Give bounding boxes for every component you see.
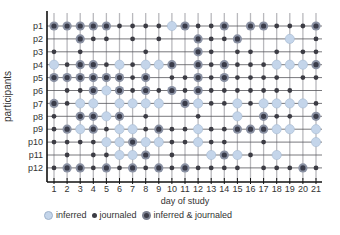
y-tick-label: p4 (33, 60, 43, 70)
marker-journaled (274, 88, 279, 93)
marker-journaled (130, 37, 135, 42)
marker-journaled (222, 166, 227, 171)
journaled-marker-icon (92, 213, 97, 218)
x-tick-label: 14 (219, 184, 229, 194)
marker-inferred-and-journaled-core (51, 101, 56, 106)
x-tick-label: 10 (167, 184, 177, 194)
marker-journaled (183, 75, 188, 80)
marker-inferred (272, 99, 281, 108)
marker-journaled (209, 24, 214, 29)
marker-journaled (209, 88, 214, 93)
marker-journaled (209, 140, 214, 145)
marker-inferred-and-journaled-core (91, 88, 96, 93)
y-tick-label: p10 (28, 137, 43, 147)
marker-journaled (156, 24, 161, 29)
marker-journaled (183, 140, 188, 145)
marker-journaled (235, 62, 240, 67)
marker-journaled (65, 101, 70, 106)
marker-inferred (233, 112, 242, 121)
marker-journaled (248, 49, 253, 54)
marker-inferred-and-journaled-core (156, 165, 161, 170)
marker-journaled (65, 153, 70, 158)
marker-journaled (65, 140, 70, 145)
marker-journaled (274, 166, 279, 171)
marker-journaled (170, 127, 175, 132)
marker-inferred-and-journaled-core (117, 88, 122, 93)
marker-journaled (222, 140, 227, 145)
marker-inferred-and-journaled-core (143, 88, 148, 93)
marker-journaled (301, 75, 306, 80)
marker-journaled (287, 88, 292, 93)
marker-inferred-and-journaled-core (78, 36, 83, 41)
marker-inferred-and-journaled-core (104, 165, 109, 170)
marker-journaled (130, 62, 135, 67)
marker-inferred (285, 60, 294, 69)
marker-inferred (115, 125, 124, 134)
marker-journaled (52, 166, 57, 171)
marker-journaled (78, 88, 83, 93)
marker-inferred-and-journaled-core (117, 114, 122, 119)
marker-journaled (222, 127, 227, 132)
marker-journaled (314, 75, 319, 80)
marker-inferred (285, 99, 294, 108)
marker-journaled (91, 37, 96, 42)
marker-inferred (167, 21, 176, 30)
marker-journaled (143, 127, 148, 132)
marker-inferred (128, 150, 137, 159)
marker-inferred-and-journaled-core (261, 114, 266, 119)
marker-journaled (143, 24, 148, 29)
marker-inferred (76, 125, 85, 134)
marker-inferred-and-journaled-core (196, 49, 201, 54)
marker-inferred (102, 86, 111, 95)
marker-inferred (102, 112, 111, 121)
marker-inferred-and-journaled-core (222, 62, 227, 67)
marker-inferred-and-journaled-core (117, 75, 122, 80)
plot-area: 123456789101112131415161718192021p1p2p3p… (0, 0, 340, 235)
marker-inferred-and-journaled-core (143, 75, 148, 80)
marker-inferred (154, 60, 163, 69)
marker-inferred-and-journaled-core (104, 23, 109, 28)
marker-journaled (196, 24, 201, 29)
marker-journaled (235, 49, 240, 54)
marker-inferred-and-journaled-core (235, 36, 240, 41)
marker-inferred-and-journaled-core (130, 165, 135, 170)
marker-journaled (130, 24, 135, 29)
marker-inferred (154, 99, 163, 108)
marker-journaled (209, 166, 214, 171)
marker-inferred-and-journaled-core (169, 62, 174, 67)
marker-inferred-and-journaled-core (91, 23, 96, 28)
marker-inferred-and-journaled-core (65, 75, 70, 80)
y-tick-label: p2 (33, 34, 43, 44)
marker-inferred-and-journaled-core (51, 75, 56, 80)
marker-journaled (91, 140, 96, 145)
marker-journaled (314, 166, 319, 171)
marker-journaled (104, 153, 109, 158)
x-tick-label: 15 (232, 184, 242, 194)
marker-inferred (89, 99, 98, 108)
x-tick-label: 3 (78, 184, 83, 194)
marker-journaled (248, 88, 253, 93)
marker-inferred (311, 138, 320, 147)
marker-journaled (78, 49, 83, 54)
marker-inferred (272, 60, 281, 69)
marker-inferred-and-journaled-core (65, 127, 70, 132)
marker-journaled (78, 140, 83, 145)
marker-inferred-and-journaled-core (196, 36, 201, 41)
marker-journaled (52, 114, 57, 119)
marker-journaled (287, 166, 292, 171)
y-tick-label: p8 (33, 112, 43, 122)
x-tick-label: 9 (156, 184, 161, 194)
marker-journaled (314, 101, 319, 106)
x-tick-label: 6 (117, 184, 122, 194)
marker-journaled (65, 62, 70, 67)
x-tick-label: 12 (193, 184, 203, 194)
marker-journaled (274, 75, 279, 80)
marker-inferred (128, 99, 137, 108)
marker-inferred-and-journaled-core (222, 75, 227, 80)
marker-inferred (141, 99, 150, 108)
marker-journaled (222, 101, 227, 106)
x-tick-label: 16 (245, 184, 255, 194)
marker-inferred (233, 99, 242, 108)
legend-label-both: inferred & journaled (154, 210, 233, 220)
x-tick-label: 13 (206, 184, 216, 194)
